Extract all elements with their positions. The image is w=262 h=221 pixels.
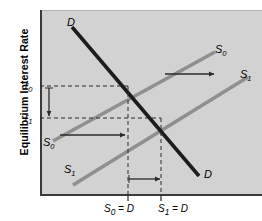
supply-label-s1-left: S1 [64,163,76,178]
supply-label-s0-left: S0 [43,136,55,151]
x-tick-label-s1: S1 = D [158,203,188,217]
y-tick-label-r1: r1 [25,112,33,126]
supply-label-s0-right: S0 [215,43,227,58]
supply-demand-chart: Equilibrium Interest Rate [0,0,262,221]
demand-label-top: D [67,16,75,28]
demand-label-bottom: D [204,168,212,180]
y-tick-label-r0: r0 [25,80,33,94]
x-tick-label-s0: S0 = D [104,203,134,217]
demand-curve [72,27,199,176]
supply-curve-s0 [53,52,215,141]
supply-label-s1-right: S1 [240,68,252,83]
plot-graphics [0,0,262,221]
